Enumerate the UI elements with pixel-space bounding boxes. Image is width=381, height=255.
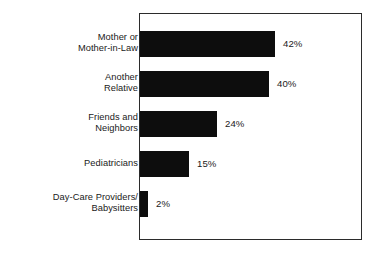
category-label: Pediatricians [0,158,138,169]
category-label: Another Relative [0,72,138,95]
bar [140,31,275,57]
bar [140,71,269,97]
category-label: Day-Care Providers/ Babysitters [0,192,138,215]
bar [140,151,189,177]
category-label: Friends and Neighbors [0,112,138,135]
bar [140,111,217,137]
bar-value-label: 2% [156,191,170,217]
bar-value-label: 42% [283,31,303,57]
bar-value-label: 24% [225,111,245,137]
bar-value-label: 15% [197,151,217,177]
chart-rows: Mother or Mother-in-Law42%Another Relati… [0,0,381,255]
category-label: Mother or Mother-in-Law [0,32,138,55]
bar-value-label: 40% [277,71,297,97]
bar [140,191,148,217]
bar-chart: Mother or Mother-in-Law42%Another Relati… [0,0,381,255]
